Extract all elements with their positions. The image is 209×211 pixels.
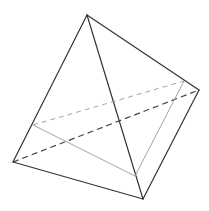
edge-left-bottom [13, 162, 143, 199]
section-line-front-right [135, 81, 184, 176]
edge-top-left [13, 15, 87, 162]
tetrahedron-diagram [0, 0, 209, 211]
section-line-left-front [33, 125, 135, 176]
edge-top-right [87, 15, 199, 90]
edge-left-right-hidden [13, 90, 199, 162]
